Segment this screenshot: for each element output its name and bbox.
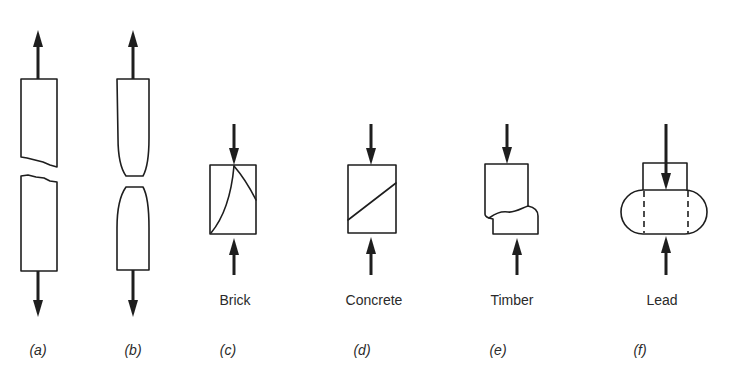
material-label-timber: Timber [490, 292, 533, 308]
specimen-f-lead: Lead (f) [621, 124, 707, 358]
specimen-b: (b) [117, 30, 149, 358]
material-label-concrete: Concrete [346, 292, 403, 308]
arrow-down-icon [661, 173, 671, 190]
arrow-down-icon [502, 147, 512, 164]
arrow-up-icon [128, 30, 138, 47]
specimen-a: (a) [21, 30, 57, 358]
arrow-down-icon [366, 148, 376, 165]
lower-necked-fragment [117, 187, 149, 270]
arrow-down-icon [33, 300, 43, 317]
bulged-block [621, 190, 707, 234]
figure-label-c: (c) [220, 342, 236, 358]
figure-label-a: (a) [29, 342, 46, 358]
concrete-block [348, 165, 396, 233]
figure-label-f: (f) [633, 342, 646, 358]
material-label-lead: Lead [646, 292, 677, 308]
material-label-brick: Brick [219, 292, 251, 308]
arrow-down-icon [229, 148, 239, 165]
figure-label-d: (d) [353, 342, 370, 358]
arrow-up-icon [33, 30, 43, 47]
arrow-down-icon [128, 300, 138, 317]
figure-label-e: (e) [489, 342, 506, 358]
upper-fragment [21, 79, 57, 167]
specimen-e-timber: Timber (e) [485, 124, 538, 358]
timber-block [485, 164, 538, 234]
specimen-c-brick: Brick (c) [210, 124, 256, 358]
failure-modes-diagram: (a) (b) Brick (c) Concrete (d) [0, 0, 732, 379]
figure-label-b: (b) [124, 342, 141, 358]
specimen-d-concrete: Concrete (d) [346, 124, 403, 358]
lower-fragment [21, 175, 57, 271]
upper-necked-fragment [117, 79, 149, 176]
